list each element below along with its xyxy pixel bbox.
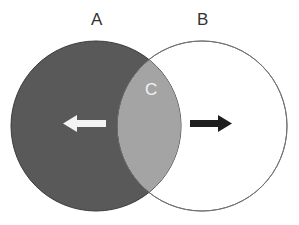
venn-diagram	[0, 0, 299, 225]
label-a: A	[91, 10, 102, 30]
label-b: B	[197, 10, 208, 30]
label-c: C	[145, 80, 157, 100]
